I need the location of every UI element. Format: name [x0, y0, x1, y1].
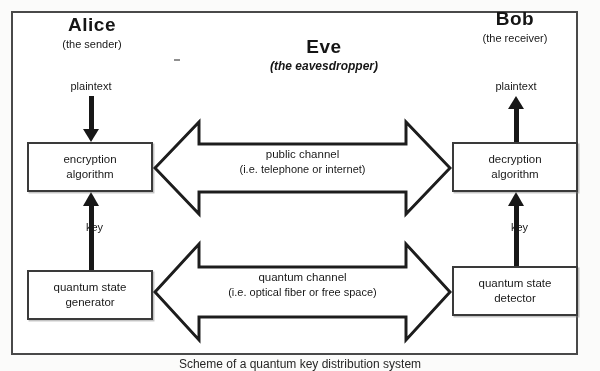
arrow-shaft	[514, 205, 519, 266]
party-role-alice: (the sender)	[28, 37, 156, 52]
channel-public-line2: (i.e. telephone or internet)	[153, 162, 452, 177]
party-label-bob: Bob (the receiver)	[452, 8, 578, 46]
channel-public-text: public channel (i.e. telephone or intern…	[153, 147, 452, 177]
arrow-head-up	[83, 192, 99, 206]
scan-artifact-speck	[174, 59, 180, 61]
diagram-caption: Scheme of a quantum key distribution sys…	[0, 357, 600, 371]
channel-quantum: quantum channel (i.e. optical fiber or f…	[153, 240, 452, 344]
box-quantum-state-detector: quantum state detector	[452, 266, 578, 316]
box-line-1: quantum state	[479, 276, 552, 291]
box-encryption-algorithm: encryption algorithm	[27, 142, 153, 192]
arrow-head-down	[83, 129, 99, 142]
channel-public: public channel (i.e. telephone or intern…	[153, 118, 452, 218]
party-name-alice: Alice	[28, 14, 156, 36]
party-label-eve: Eve (the eavesdropper)	[239, 36, 409, 74]
arrow-shaft	[514, 108, 519, 142]
arrow-shaft	[89, 96, 94, 130]
box-line-2: algorithm	[66, 167, 113, 182]
arrow-key-generator-to-encryption-icon	[83, 192, 99, 270]
party-name-eve: Eve	[239, 36, 409, 58]
arrow-head-up	[508, 192, 524, 206]
arrow-head-up	[508, 96, 524, 109]
box-quantum-state-generator: quantum state generator	[27, 270, 153, 320]
diagram-canvas: Alice (the sender) Eve (the eavesdropper…	[0, 0, 600, 371]
party-role-eve: (the eavesdropper)	[239, 59, 409, 74]
channel-quantum-line1: quantum channel	[153, 270, 452, 285]
channel-public-line1: public channel	[153, 147, 452, 162]
arrow-decryption-to-plaintext-icon	[508, 96, 524, 142]
arrow-shaft	[89, 205, 94, 270]
channel-quantum-line2: (i.e. optical fiber or free space)	[153, 285, 452, 300]
box-line-1: decryption	[488, 152, 541, 167]
box-line-2: detector	[494, 291, 536, 306]
arrow-key-detector-to-decryption-icon	[508, 192, 524, 266]
box-line-2: algorithm	[491, 167, 538, 182]
arrow-plaintext-to-encryption-icon	[83, 96, 99, 142]
label-plaintext-alice: plaintext	[30, 80, 152, 93]
party-role-bob: (the receiver)	[452, 31, 578, 46]
label-plaintext-bob: plaintext	[455, 80, 577, 93]
party-name-bob: Bob	[452, 8, 578, 30]
box-decryption-algorithm: decryption algorithm	[452, 142, 578, 192]
box-line-1: quantum state	[54, 280, 127, 295]
channel-quantum-text: quantum channel (i.e. optical fiber or f…	[153, 270, 452, 300]
box-line-1: encryption	[63, 152, 116, 167]
party-label-alice: Alice (the sender)	[28, 14, 156, 52]
box-line-2: generator	[65, 295, 114, 310]
